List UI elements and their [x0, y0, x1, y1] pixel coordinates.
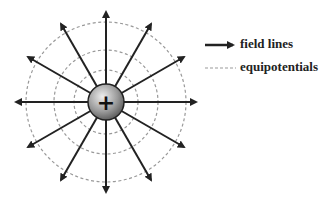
field-line-arrow	[61, 24, 97, 86]
plus-sign: +	[97, 90, 115, 115]
field-line-arrow	[61, 118, 97, 180]
legend-equipotentials: equipotentials	[240, 59, 318, 75]
field-line-arrow	[122, 57, 184, 93]
field-line-arrow	[115, 24, 151, 86]
field-line-arrow	[122, 111, 184, 147]
field-diagram: +	[0, 0, 329, 201]
field-line-arrow	[28, 111, 90, 147]
legend-field-lines: field lines	[240, 36, 293, 52]
field-line-arrow	[28, 57, 90, 93]
field-line-arrow	[115, 118, 151, 180]
